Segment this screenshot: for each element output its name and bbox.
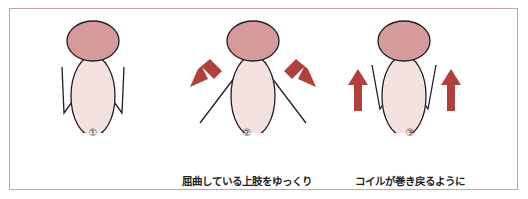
head-shape <box>67 21 119 61</box>
torso-shape <box>382 56 426 133</box>
torso-shape <box>71 56 115 133</box>
panel-number-2: ② <box>162 127 332 138</box>
figure-container: ① <box>0 0 528 199</box>
arrow-up-left-icon <box>348 69 368 111</box>
head-shape <box>227 21 279 61</box>
panel-2: ② 屈曲している上肢をゆっくり 伸展位に保持し素早く手を離す <box>162 9 332 191</box>
torso-shape <box>231 56 275 133</box>
arrow-down-left-icon <box>190 59 222 87</box>
panel-caption-1 <box>18 146 168 199</box>
panel-3: ③ コイルが巻き戻るように 上肢がもとの屈曲位になる <box>310 9 510 191</box>
figure-border-frame: ① <box>9 8 518 190</box>
panel-1: ① <box>18 9 168 191</box>
caption-line-1: コイルが巻き戻るように <box>310 174 510 188</box>
head-shape <box>378 21 430 61</box>
panel-number-3: ③ <box>310 127 510 138</box>
arrow-up-right-icon <box>441 69 461 111</box>
body-diagram-flexed-recoil <box>310 13 510 133</box>
panel-caption-3: コイルが巻き戻るように 上肢がもとの屈曲位になる <box>310 146 510 199</box>
caption-line-1: 屈曲している上肢をゆっくり <box>162 174 332 188</box>
body-diagram-flexed-neutral <box>18 13 168 133</box>
panel-caption-2: 屈曲している上肢をゆっくり 伸展位に保持し素早く手を離す <box>162 146 332 199</box>
panel-number-1: ① <box>18 127 168 138</box>
body-diagram-extended <box>162 13 332 133</box>
